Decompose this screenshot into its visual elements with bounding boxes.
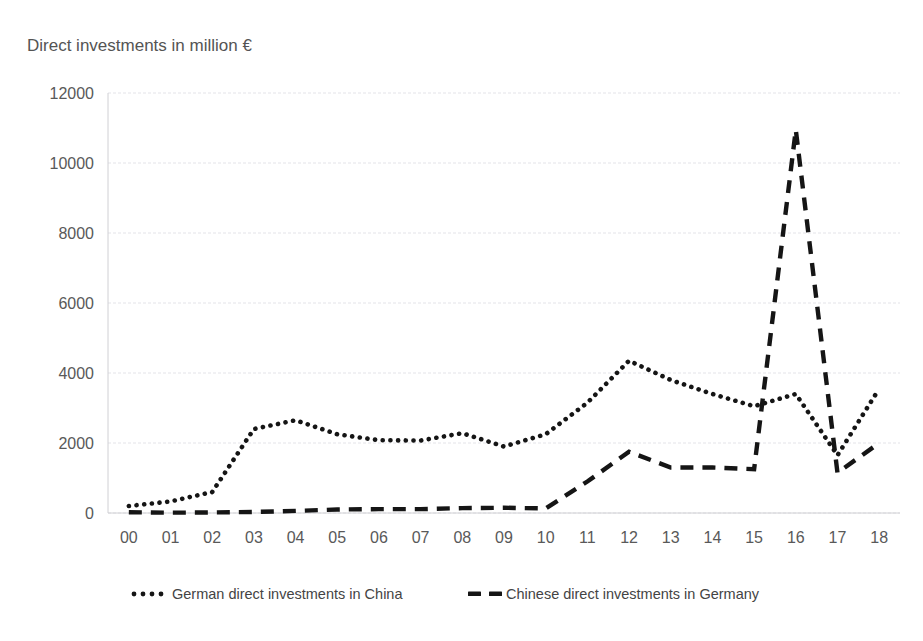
x-tick-label: 06 [370,529,388,546]
x-tick-label: 15 [745,529,763,546]
x-tick-label: 03 [245,529,263,546]
legend-item-chinese[interactable]: Chinese direct investments in Germany [468,586,760,602]
legend-label-chinese: Chinese direct investments in Germany [506,586,760,602]
x-tick-label: 14 [704,529,722,546]
x-tick-label: 16 [787,529,805,546]
y-tick-label: 8000 [58,225,94,242]
x-tick-label: 08 [453,529,471,546]
y-tick-label: 0 [85,505,94,522]
x-tick-label: 12 [620,529,638,546]
x-tick-label: 05 [328,529,346,546]
y-tick-label: 10000 [50,155,95,172]
legend-label-german: German direct investments in China [172,586,403,602]
x-tick-label: 09 [495,529,513,546]
y-tick-label: 4000 [58,365,94,382]
x-tick-label: 07 [412,529,430,546]
x-tick-label: 02 [203,529,221,546]
legend-item-german[interactable]: German direct investments in China [132,586,404,602]
chart-axis-title: Direct investments in million € [27,36,252,55]
y-tick-label: 12000 [50,85,95,102]
x-tick-label: 18 [870,529,888,546]
y-tick-label: 6000 [58,295,94,312]
direct-investments-line-chart: Direct investments in million € 02000400… [0,0,923,641]
x-tick-label: 01 [162,529,180,546]
x-tick-label: 11 [579,529,596,546]
x-tick-label: 10 [537,529,555,546]
x-tick-label: 13 [662,529,680,546]
x-tick-label: 17 [829,529,847,546]
x-tick-label: 04 [287,529,305,546]
y-tick-label: 2000 [58,435,94,452]
x-tick-label: 00 [120,529,138,546]
